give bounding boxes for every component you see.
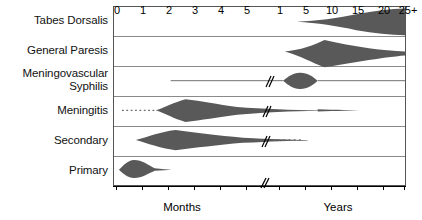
tick-years-1 — [279, 186, 280, 190]
plot-area — [113, 6, 406, 186]
tick-years-5 — [305, 186, 306, 190]
tick-years-10 — [331, 186, 332, 190]
tick-label-months-4: 4 — [218, 4, 224, 17]
tick-label-years-10: 10 — [326, 4, 338, 17]
tick-label-months-3: 3 — [192, 4, 198, 17]
tick-label-years-25-plus: 25+ — [399, 4, 418, 17]
x-axis-caption-months: Months — [163, 201, 201, 214]
tick-label-months-1: 1 — [140, 4, 146, 17]
tick-label-years-20: 20 — [378, 4, 390, 17]
tick-months-2 — [168, 186, 169, 190]
band-meningovascular-syphilis — [283, 73, 318, 89]
band-shapes — [114, 7, 405, 185]
axis-break-mark-meningitis — [259, 103, 273, 121]
tick-years-15 — [357, 186, 358, 190]
tick-months-3 — [194, 186, 195, 190]
band-general-paresis — [285, 40, 405, 67]
tick-label-years-5: 5 — [303, 4, 309, 17]
x-axis-caption-years: Years — [324, 201, 353, 214]
axis-break-mark-x-axis — [258, 177, 272, 191]
tick-label-years-1: 1 — [277, 4, 283, 17]
tick-months-1 — [142, 186, 143, 190]
tick-label-months-0: 0 — [114, 4, 120, 17]
row-label-tabes-dorsalis: Tabes Dorsalis — [34, 14, 108, 27]
band-meningitis-tail — [318, 109, 365, 111]
row-label-primary: Primary — [69, 164, 108, 177]
tick-years-20 — [383, 186, 384, 190]
row-label-meningitis: Meningitis — [57, 104, 108, 117]
band-secondary — [136, 130, 308, 150]
tick-label-years-15: 15 — [352, 4, 364, 17]
row-label-secondary: Secondary — [54, 134, 108, 147]
tick-years-25 — [404, 186, 405, 190]
axis-break-mark-meningovascular — [262, 73, 276, 91]
tick-label-months-2: 2 — [166, 4, 172, 17]
tick-label-months-5: 5 — [244, 4, 250, 17]
band-meningitis — [156, 99, 318, 122]
axis-break-mark-secondary — [258, 133, 272, 151]
tick-months-0 — [116, 186, 117, 190]
row-label-general-paresis: General Paresis — [27, 44, 108, 57]
row-label-meningovascular-syphilis: Meningovascular Syphilis — [23, 67, 108, 92]
band-primary — [119, 160, 172, 178]
tick-months-5 — [246, 186, 247, 190]
tick-months-4 — [220, 186, 221, 190]
syphilis-stage-timeline-chart: Tabes Dorsalis General Paresis Meningova… — [0, 0, 422, 220]
